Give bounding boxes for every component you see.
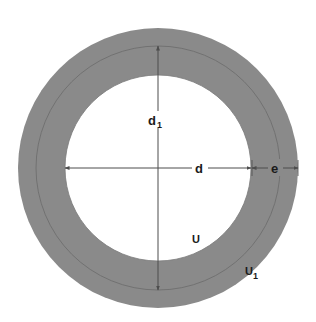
label-e-base: e	[271, 161, 278, 176]
label-d-base: d	[195, 161, 203, 176]
label-d1-base: d	[148, 113, 156, 128]
label-e: e	[268, 159, 283, 176]
label-u1-subscript: 1	[253, 271, 258, 281]
label-u: U	[192, 233, 200, 245]
label-u1-base: U	[245, 265, 253, 277]
label-d: d	[192, 159, 208, 176]
annulus-drawing-canvas: d 1 d e U U 1	[0, 0, 316, 322]
label-u-base: U	[192, 233, 200, 245]
label-d1: d 1	[144, 111, 170, 130]
annulus-diagram: d 1 d e U U 1	[0, 0, 316, 322]
label-d1-subscript: 1	[157, 120, 162, 130]
